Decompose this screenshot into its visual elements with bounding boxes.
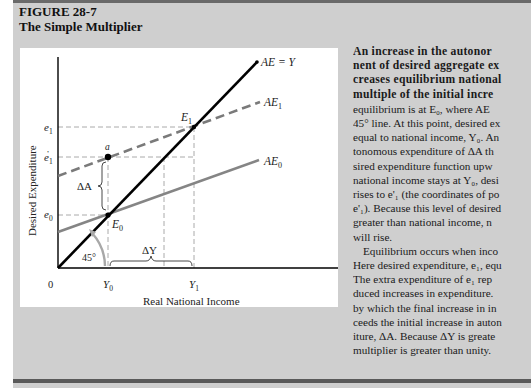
caption-bold-line: creases equilibrium national xyxy=(353,73,531,87)
tick-e1-prime-mark: , xyxy=(47,145,49,154)
ae0-label: AE0 xyxy=(263,155,282,170)
ae-line-endpoint xyxy=(255,60,259,64)
caption-line: rises to e'₁ (the coordinates of po xyxy=(353,187,531,201)
tick-e0: e0 xyxy=(44,208,53,223)
caption-line: equilibrium is at E₀, where AE xyxy=(353,102,531,116)
multiplier-chart: AE = Y AE1 AE0 E1 E0 a ΔA ΔY 45° e1 e1 ,… xyxy=(20,48,338,307)
caption-bold-line: An increase in the autonor xyxy=(353,45,531,59)
point-e0 xyxy=(105,212,110,217)
caption-line: Here desired expenditure, e₁, equ xyxy=(353,258,531,272)
ae1-label: AE1 xyxy=(263,96,282,111)
chart-panel: AE = Y AE1 AE0 E1 E0 a ΔA ΔY 45° e1 e1 ,… xyxy=(20,48,338,307)
top-rule xyxy=(13,0,531,3)
point-e1 xyxy=(192,125,196,129)
delta-a-label: ΔA xyxy=(77,180,92,192)
delta-y-brace xyxy=(110,256,192,266)
delta-a-brace xyxy=(98,162,106,210)
caption-line: sired expenditure function upw xyxy=(353,159,531,173)
ae-equals-y-label: AE = Y xyxy=(260,56,297,68)
caption-line: Equilibrium occurs when inco xyxy=(353,244,531,258)
caption-line: multiplier is greater than unity. xyxy=(353,343,531,357)
caption-line: greater than national income, n xyxy=(353,215,531,229)
caption-text: An increase in the autonor nent of desir… xyxy=(353,45,531,357)
caption-line: iture, ΔA. Because ΔY is greate xyxy=(353,329,531,343)
x-axis-label: Real National Income xyxy=(143,295,240,307)
y-axis-label: Desired Expenditure xyxy=(26,145,38,236)
caption-line: e'₁). Because this level of desired xyxy=(353,201,531,215)
angle-label: 45° xyxy=(82,252,96,263)
tick-origin: 0 xyxy=(48,279,53,290)
caption-line: will rise. xyxy=(353,230,531,244)
caption-line: duced increases in expenditure. xyxy=(353,286,531,300)
caption-line: equal to national income, Y₀. An xyxy=(353,130,531,144)
caption-line: ceeds the initial increase in auton xyxy=(353,315,531,329)
caption-line: 45° line. At this point, desired ex xyxy=(353,116,531,130)
point-a xyxy=(105,154,111,160)
caption-line: tonomous expenditure of ΔA th xyxy=(353,144,531,158)
a-point-label: a xyxy=(105,142,110,152)
caption-line: national income stays at Y₀, desi xyxy=(353,173,531,187)
caption-bold-line: nent of desired aggregate ex xyxy=(353,59,531,73)
figure-title: The Simple Multiplier xyxy=(19,19,143,34)
tick-y1: Y1 xyxy=(189,278,199,293)
caption-line: The extra expenditure of e₁ rep xyxy=(353,272,531,286)
e1-point-label: E1 xyxy=(180,111,192,126)
caption-line: by which the final increase in in xyxy=(353,301,531,315)
figure-label: FIGURE 28-7 xyxy=(19,4,97,19)
delta-y-label: ΔY xyxy=(142,244,157,256)
tick-e1: e1 xyxy=(44,121,53,136)
bottom-rule xyxy=(13,379,531,383)
tick-y0: Y0 xyxy=(103,278,113,293)
caption-bold-line: multiple of the initial incre xyxy=(353,88,531,102)
ae0-line xyxy=(58,160,259,232)
e0-point-label: E0 xyxy=(111,218,123,233)
